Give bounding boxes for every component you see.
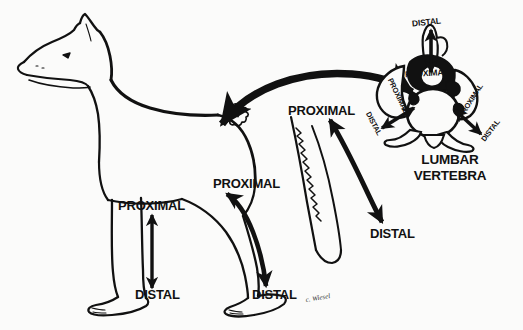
label-vertebra-top-proximal: PROXIMAL <box>405 68 449 79</box>
dog-eye <box>63 53 70 58</box>
dog-body-outline <box>18 14 341 316</box>
diagram-canvas: PROXIMAL DISTAL PROXIMAL DISTAL PROXIMAL… <box>0 0 523 330</box>
caption-line-1: LUMBAR <box>400 152 500 168</box>
label-hindleg-proximal: PROXIMAL <box>213 177 280 190</box>
caption-line-2: VERTEBRA <box>400 168 500 184</box>
dog-tail <box>291 117 341 263</box>
dog-mouth <box>27 75 88 86</box>
caption-lumbar-vertebra: LUMBAR VERTEBRA <box>400 152 500 183</box>
label-tail-distal: DISTAL <box>370 227 415 240</box>
arrow-hindleg-axis <box>227 194 266 286</box>
dog-ear <box>80 14 100 32</box>
label-foreleg-distal: DISTAL <box>135 288 180 301</box>
label-foreleg-proximal: PROXIMAL <box>118 199 185 212</box>
label-tail-proximal: PROXIMAL <box>288 104 355 117</box>
label-hindleg-distal: DISTAL <box>252 288 297 301</box>
